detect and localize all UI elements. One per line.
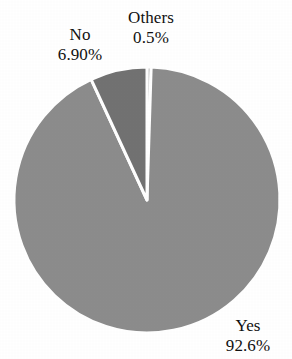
pie-chart: Others 0.5% No 6.90% Yes 92.6% xyxy=(0,0,292,359)
pie-label-no-value: 6.90% xyxy=(30,45,130,65)
pie-label-no: No 6.90% xyxy=(30,25,130,64)
pie-label-yes-value: 92.6% xyxy=(208,336,288,356)
pie-label-yes-name: Yes xyxy=(208,316,288,336)
pie-label-yes: Yes 92.6% xyxy=(208,316,288,355)
pie-slice-group xyxy=(14,67,280,333)
pie-label-no-name: No xyxy=(30,25,130,45)
